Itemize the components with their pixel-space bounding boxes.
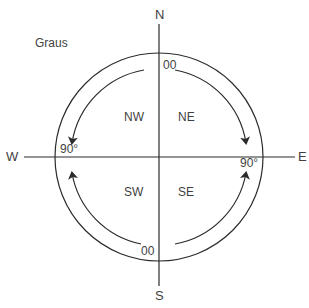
diagram-title: Graus bbox=[35, 37, 68, 49]
north-label: N bbox=[155, 9, 164, 21]
east-label: E bbox=[298, 151, 307, 163]
quadrant-se-label: SE bbox=[178, 186, 194, 198]
degree-top-label: 00 bbox=[163, 59, 176, 71]
sw-arrow-arc bbox=[72, 173, 141, 244]
degree-right-label: 90° bbox=[240, 157, 258, 169]
quadrant-ne-label: NE bbox=[178, 111, 195, 123]
south-label: S bbox=[155, 290, 164, 302]
degree-bottom-label: 00 bbox=[141, 245, 154, 257]
west-label: W bbox=[6, 151, 18, 163]
degree-left-label: 90° bbox=[60, 143, 78, 155]
nw-arrow-arc bbox=[72, 70, 144, 143]
se-arrow-arc bbox=[175, 173, 246, 244]
quadrant-sw-label: SW bbox=[124, 186, 143, 198]
ne-arrow-arc bbox=[175, 70, 246, 143]
quadrant-nw-label: NW bbox=[124, 111, 144, 123]
